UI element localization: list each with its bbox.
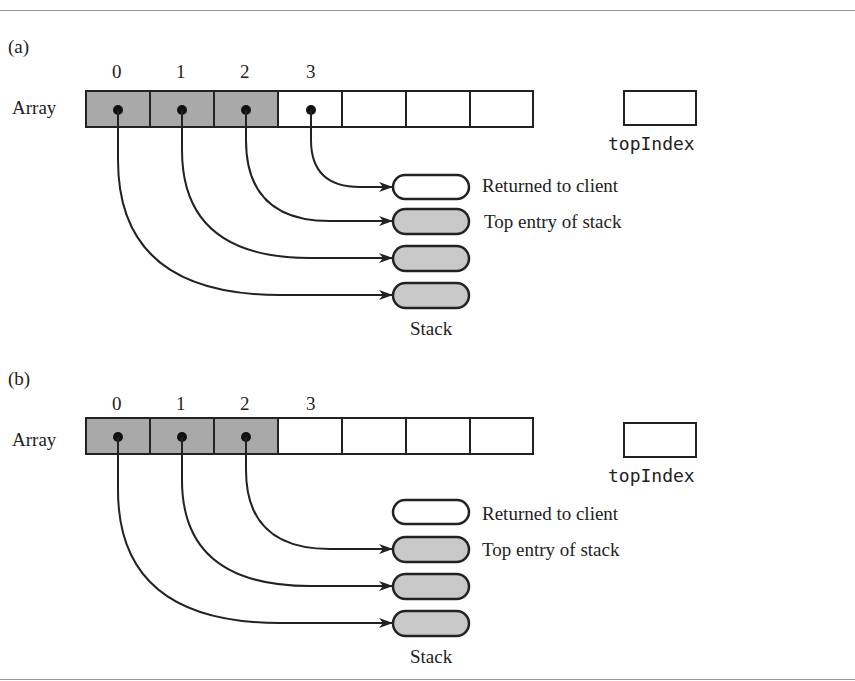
top-index-box xyxy=(624,91,696,125)
stack-b xyxy=(393,500,469,636)
array-b xyxy=(86,418,533,454)
stack-a xyxy=(393,175,469,308)
arrows-b xyxy=(118,437,392,623)
arrows-a xyxy=(118,110,392,295)
top-index-box xyxy=(624,423,696,457)
diagram-graphics xyxy=(0,0,855,681)
